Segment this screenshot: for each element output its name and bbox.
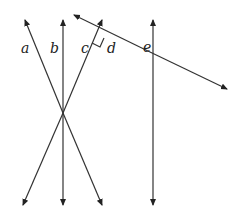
line-a-lower: [63, 113, 102, 205]
label-a: a: [21, 40, 29, 56]
label-d: d: [107, 40, 116, 56]
diagram-canvas: a b c d e: [0, 0, 240, 211]
label-b: b: [50, 40, 59, 56]
line-c-lower: [23, 113, 63, 205]
line-c: [63, 20, 102, 113]
label-e: e: [143, 39, 151, 55]
label-c: c: [81, 40, 89, 56]
line-a: [25, 20, 63, 113]
line-d-lower: [150, 52, 227, 89]
lines-diagram: a b c d e: [0, 0, 240, 211]
